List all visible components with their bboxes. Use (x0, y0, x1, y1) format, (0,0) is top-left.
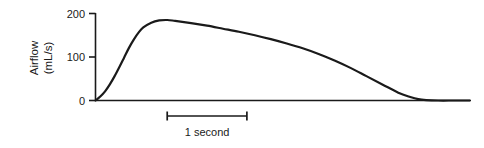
y-axis-units: (mL/s) (42, 42, 54, 75)
y-axis-title: Airflow (28, 40, 40, 75)
airflow-curve (96, 20, 471, 101)
airflow-waveform-figure: 200 100 0 Airflow (mL/s) 1 second (0, 0, 484, 148)
chart-svg: 200 100 0 Airflow (mL/s) 1 second (0, 0, 484, 148)
y-axis-tick-label-0: 0 (79, 95, 85, 107)
y-axis-tick-label-200: 200 (67, 8, 85, 20)
scale-bar-label: 1 second (185, 126, 230, 138)
scale-bar: 1 second (167, 112, 247, 139)
y-axis-tick-label-100: 100 (67, 51, 85, 63)
